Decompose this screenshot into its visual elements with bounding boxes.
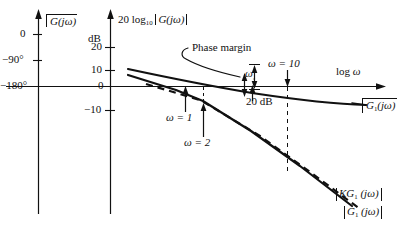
phase-axis-ticks <box>33 35 42 61</box>
phase-axis-label: G(jω) <box>46 14 77 27</box>
axes-group <box>6 9 386 214</box>
db-tick-minus-10: −10 <box>84 104 101 115</box>
bode-plot-figure: G(jω) 20 log10 G(jω) dB 0 −90° −180° 20 … <box>0 0 398 230</box>
horizontal-axis-arrowhead <box>376 83 386 90</box>
phase-tick-0: 0 <box>20 28 26 39</box>
x-axis-label: log ω <box>336 66 361 77</box>
annotation-omega-subscript-2: ω₂ <box>245 68 255 81</box>
phase-axis-arrowhead <box>35 9 42 19</box>
db-tick-0: 0 <box>98 80 104 91</box>
marker-omega-10 <box>285 70 291 87</box>
x-axis-label-lead: log <box>336 65 350 77</box>
curve-mag-KG1-solid <box>128 75 352 206</box>
magnitude-axis-label-arg: G(jω) <box>155 14 187 25</box>
annotation-omega-eq-10: ω = 10 <box>268 58 300 69</box>
marker-omega-2 <box>201 103 207 137</box>
marker-omega-1 <box>183 86 189 112</box>
db-tick-20: 20 <box>91 41 102 52</box>
magnitude-axis-label: 20 log10 G(jω) <box>118 14 187 27</box>
phase-tick-minus-90: −90° <box>2 54 24 65</box>
db-tick-10: 10 <box>91 64 102 75</box>
curve-label-phase-G1: G1(jω) <box>362 98 397 113</box>
annotation-omega-1: ω = 1 <box>166 112 192 123</box>
phase-tick-minus-180: −180° <box>0 80 27 91</box>
x-axis-label-arg: ω <box>353 65 361 77</box>
annotation-gain-margin: 20 dB <box>246 96 273 107</box>
magnitude-axis-label-lead: 20 log <box>118 13 146 25</box>
magnitude-axis-arrowhead <box>107 9 114 19</box>
curve-label-phase-G1-lead: G <box>366 99 374 111</box>
magnitude-axis-label-sub: 10 <box>146 19 153 26</box>
phase-axis-label-arg: G(jω) <box>50 15 76 27</box>
curve-label-mag-KG1: KG1 (jω) <box>336 188 382 201</box>
annotation-omega-eq-2: ω = 2 <box>184 137 210 148</box>
curve-label-mag-G1: G1 (jω) <box>344 206 382 219</box>
annotation-phase-margin: Phase margin <box>192 42 251 53</box>
